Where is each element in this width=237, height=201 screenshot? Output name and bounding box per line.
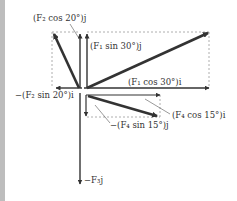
leader-f4-sin [95,105,110,123]
label-f4-cos: (F₄ cos 15°)i [172,110,226,120]
label-f2-cos: (F₂ cos 20°)j [33,13,86,23]
force-diagram: (F₂ cos 20°)j (F₁ sin 30°)j (F₁ cos 30°)… [0,0,237,201]
label-f2-sin: −(F₂ sin 20°)i [15,90,74,100]
label-f4-sin: −(F₄ sin 15°)j [110,120,169,130]
label-f1-sin: (F₁ sin 30°)j [90,41,142,51]
f4-vector [88,96,157,116]
label-f3: −F₃j [84,175,103,185]
leader-f2-cos [70,24,80,40]
label-f1-cos: (F₁ cos 30°)i [128,77,182,87]
f2-vector [54,34,79,88]
leader-f4-cos [145,99,170,114]
